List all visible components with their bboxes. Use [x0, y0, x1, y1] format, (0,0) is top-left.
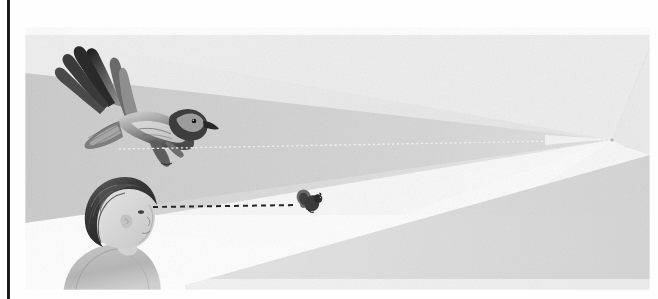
- boy-ear: [121, 214, 133, 228]
- page-canvas: Hawk and human visual acuity comparison …: [0, 0, 658, 299]
- illustration-artwork: [25, 27, 650, 290]
- hawk-eye: [192, 119, 197, 124]
- page-binding-rule: [7, 0, 10, 299]
- boy-eye: [138, 210, 144, 214]
- illustration-plate: [25, 27, 650, 290]
